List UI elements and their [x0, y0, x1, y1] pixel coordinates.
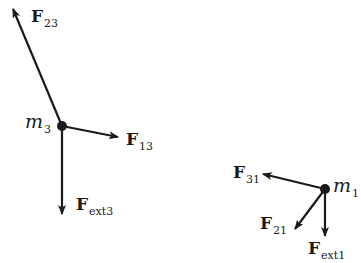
mass-dot-m1 [320, 184, 330, 194]
force-arrow-f21 [295, 189, 325, 229]
label-f23-subscript: 23 [44, 17, 58, 30]
label-f13-symbol: F [126, 129, 138, 149]
label-m3-subscript: 3 [44, 123, 51, 136]
force-arrow-f31 [263, 174, 325, 189]
label-m1: m1 [333, 176, 359, 199]
label-f23: F23 [31, 8, 58, 29]
label-f31-symbol: F [233, 162, 245, 182]
label-fext1-subscript: ext1 [321, 249, 345, 262]
label-f31-subscript: 31 [246, 173, 260, 186]
label-f21-symbol: F [260, 213, 272, 233]
label-fext3-symbol: F [76, 194, 88, 214]
mass-dot-m3 [57, 121, 67, 131]
label-f13-subscript: 13 [139, 140, 153, 153]
label-f23-symbol: F [31, 6, 43, 26]
label-m1-subscript: 1 [352, 187, 359, 200]
label-m1-symbol: m [333, 174, 351, 196]
free-body-diagram: F23 m3 F13 Fext3 F31 m1 F21 Fext1 [0, 0, 361, 263]
label-fext3: Fext3 [76, 196, 113, 217]
force-arrow-f13 [62, 126, 118, 137]
label-f21: F21 [260, 215, 287, 236]
label-fext3-subscript: ext3 [89, 205, 113, 218]
diagram-svg [0, 0, 361, 263]
label-f13: F13 [126, 131, 153, 152]
label-fext1: Fext1 [308, 240, 345, 261]
label-m3: m3 [25, 112, 51, 135]
label-f21-subscript: 21 [273, 224, 287, 237]
label-f31: F31 [233, 164, 260, 185]
label-fext1-symbol: F [308, 238, 320, 258]
label-m3-symbol: m [25, 110, 43, 132]
